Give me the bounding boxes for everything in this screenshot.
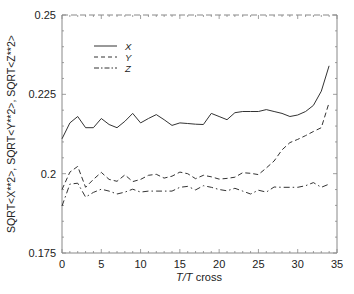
line-chart: 051015202530350.1750.20.2250.25 XYZ SQRT… — [0, 0, 354, 294]
series-z-line — [62, 183, 329, 206]
legend-label-y: Y — [125, 52, 132, 63]
plot-frame — [62, 15, 337, 253]
y-tick-label: 0.25 — [35, 9, 56, 21]
x-tick-label: 15 — [174, 258, 186, 270]
x-tick-label: 5 — [98, 258, 104, 270]
y-tick-label: 0.225 — [28, 88, 56, 100]
x-axis-title-rest: cross — [193, 271, 223, 283]
x-tick-label: 35 — [331, 258, 343, 270]
y-tick-label: 0.2 — [41, 168, 56, 180]
axis-ticks — [62, 15, 337, 253]
legend: XYZ — [94, 41, 132, 74]
x-axis-title: T/T cross — [176, 271, 222, 283]
y-axis-title: SQRT<X**2>, SQRT<Y**2>, SQRT<Z**2> — [5, 35, 17, 233]
x-tick-label: 10 — [134, 258, 146, 270]
y-tick-label: 0.175 — [28, 247, 56, 259]
x-axis-title-italic: T/T — [176, 271, 194, 283]
axis-tick-labels: 051015202530350.1750.20.2250.25 — [28, 9, 343, 270]
x-tick-label: 30 — [292, 258, 304, 270]
legend-label-x: X — [124, 41, 132, 52]
x-tick-label: 25 — [252, 258, 264, 270]
legend-label-z: Z — [124, 63, 132, 74]
data-series — [62, 66, 329, 206]
x-tick-label: 20 — [213, 258, 225, 270]
series-x-line — [62, 66, 329, 139]
x-tick-label: 0 — [59, 258, 65, 270]
